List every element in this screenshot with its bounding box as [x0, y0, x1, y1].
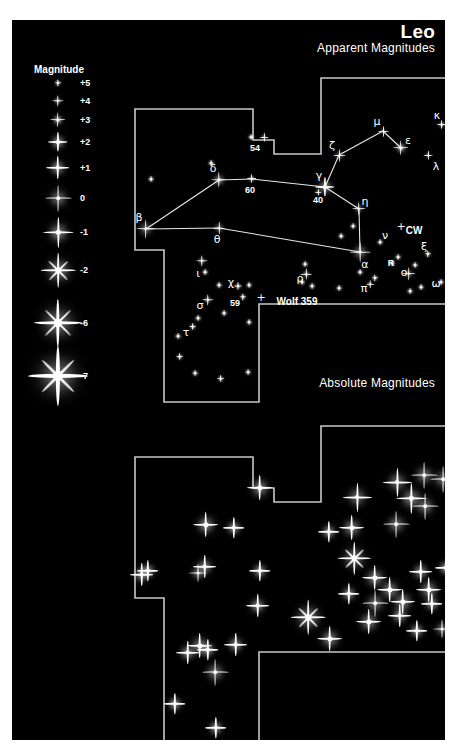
star-label-kappa: κ: [434, 109, 440, 122]
star-label-zeta: ζ: [329, 139, 335, 152]
star-label-rho: ρ: [297, 272, 304, 285]
star-label-omega: ω: [431, 277, 440, 290]
star-chart-page: Leo Apparent Magnitudes Absolute Magnitu…: [0, 0, 457, 755]
constellation-line-gamma-zeta: [325, 155, 339, 187]
cross-marker-Wolf359: +: [256, 292, 265, 303]
star-label-sigma: σ: [197, 299, 204, 312]
star-label-xi: ξ: [421, 240, 427, 253]
constellation-line-zeta-mu: [339, 131, 383, 155]
lower-boundary: [135, 426, 445, 740]
constellation-line-mu-epsilon: [383, 131, 401, 148]
star-label-mu: μ: [374, 115, 381, 128]
star-label-chi: χ: [228, 276, 234, 289]
constellation-line-beta-delta: [146, 180, 219, 229]
star-label-iota: ι: [196, 267, 200, 280]
star-label-omicron: ο: [401, 266, 408, 279]
star-label-delta: δ: [210, 162, 217, 175]
star-label-R: R: [388, 258, 395, 268]
star-label-40: 40: [313, 195, 323, 205]
constellation-line-theta-alpha: [219, 228, 360, 252]
star-label-eta: η: [362, 195, 369, 208]
star-label-59: 59: [230, 298, 240, 308]
star-label-theta: θ: [214, 233, 221, 246]
star-label-beta: β: [135, 211, 142, 224]
star-label-nu: ν: [382, 229, 388, 242]
constellation-line-beta-theta: [146, 228, 219, 229]
star-label-gamma: γ: [316, 169, 323, 182]
cross-marker-CW: +: [396, 221, 405, 232]
constellation-line-gamma-eta: [325, 187, 359, 209]
star-label-alpha: α: [361, 258, 368, 271]
star-label-60: 60: [245, 185, 255, 195]
constellation-boundaries: [12, 20, 445, 740]
star-label-54: 54: [250, 143, 260, 153]
star-label-CW: CW: [406, 225, 423, 236]
constellation-line-eta-alpha: [359, 209, 360, 252]
chart-panel: Leo Apparent Magnitudes Absolute Magnitu…: [12, 20, 445, 740]
star-label-pi: π: [361, 282, 368, 295]
constellation-line-60-gamma: [252, 179, 325, 187]
star-label-epsilon: ε: [405, 134, 411, 147]
star-label-Wolf359: Wolf 359: [277, 296, 318, 307]
constellation-line-delta-60: [219, 179, 252, 180]
star-label-lambda: λ: [433, 160, 440, 173]
star-label-tau: τ: [183, 326, 190, 339]
